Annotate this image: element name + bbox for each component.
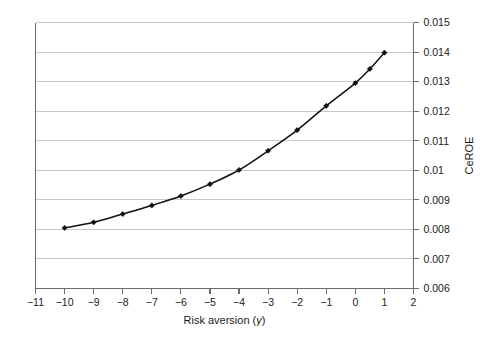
x-tick-label: −1 [320, 296, 332, 308]
x-tick-label: −5 [204, 296, 216, 308]
x-tick-label: −3 [262, 296, 274, 308]
x-tick-label: −6 [175, 296, 187, 308]
data-point-marker [120, 211, 125, 216]
y-tick-label: 0.007 [424, 253, 450, 265]
y-tick-label: 0.012 [424, 105, 450, 117]
data-point-marker [91, 220, 96, 225]
ceroe-line-chart: −11−10−9−8−7−6−5−4−3−2−1012 0.0060.0070.… [0, 0, 494, 338]
x-tick-label: 1 [382, 296, 388, 308]
x-axis-ticks-group [36, 289, 414, 294]
y-tick-label: 0.011 [424, 135, 450, 147]
data-point-marker [207, 182, 212, 187]
data-point-marker [178, 193, 183, 198]
x-tick-label: −7 [146, 296, 158, 308]
y-axis-title: CeROE [463, 137, 475, 175]
x-axis-tick-labels: −11−10−9−8−7−6−5−4−3−2−1012 [27, 296, 417, 308]
y-tick-label: 0.01 [424, 164, 445, 176]
y-tick-label: 0.009 [424, 194, 450, 206]
x-axis-title: Risk aversion (γ) [184, 314, 266, 326]
x-tick-label: −9 [88, 296, 100, 308]
x-tick-label: −11 [27, 296, 44, 308]
data-point-marker [149, 203, 154, 208]
x-tick-label: −8 [117, 296, 129, 308]
x-tick-label: −10 [56, 296, 74, 308]
y-tick-label: 0.015 [424, 16, 450, 28]
axes-lines-group [36, 23, 414, 289]
x-tick-label: −4 [233, 296, 245, 308]
y-tick-label: 0.014 [424, 46, 450, 58]
y-tick-label: 0.006 [424, 282, 450, 294]
chart-figure: −11−10−9−8−7−6−5−4−3−2−1012 0.0060.0070.… [0, 0, 494, 338]
x-tick-label: −2 [291, 296, 303, 308]
x-tick-label: 2 [411, 296, 417, 308]
y-axis-tick-labels: 0.0060.0070.0080.0090.010.0110.0120.0130… [424, 16, 450, 294]
y-tick-label: 0.008 [424, 223, 450, 235]
x-tick-label: 0 [352, 296, 358, 308]
y-tick-label: 0.013 [424, 75, 450, 87]
y-axis-ticks-group [414, 23, 419, 289]
